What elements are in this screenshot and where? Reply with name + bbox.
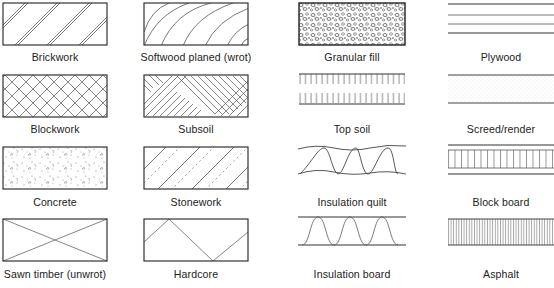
sawn-timber-cross-icon [2,218,108,262]
label-plywood: Plywood [452,51,550,63]
softwood-grain-icon [143,2,249,46]
stonework-hatch-icon [143,146,249,190]
label-insulation-quilt: Insulation quilt [302,196,401,208]
label-stonework: Stonework [147,196,245,208]
subsoil-hatch-icon [143,74,249,118]
plywood-lines-icon [448,2,554,36]
screed-dots-icon [448,72,554,106]
top-soil-comb-icon [298,72,406,106]
label-subsoil: Subsoil [147,123,245,135]
brickwork-hatch-icon [2,2,108,46]
label-blockwork: Blockwork [6,123,104,135]
label-hardcore: Hardcore [147,268,245,280]
asphalt-lines-icon [448,217,554,247]
label-brickwork: Brickwork [6,51,104,63]
insulation-quilt-wave-icon [298,142,406,178]
block-board-strips-icon [448,142,554,178]
label-insulation-board: Insulation board [302,268,401,280]
label-concrete: Concrete [6,196,104,208]
label-sawn-timber: Sawn timber (unwrot) [1,268,110,280]
hardcore-zigzag-icon [143,218,249,262]
label-granular-fill: Granular fill [302,51,401,63]
label-screed-render: Screed/render [452,123,550,135]
label-top-soil: Top soil [302,123,401,135]
granular-fill-pebbles-icon [298,2,406,46]
label-asphalt: Asphalt [452,268,550,280]
blockwork-crosshatch-icon [2,74,108,118]
concrete-stipple-icon [2,146,108,190]
label-block-board: Block board [452,196,550,208]
label-softwood-planed: Softwood planed (wrot) [139,51,253,63]
insulation-board-wave-icon [298,214,406,248]
